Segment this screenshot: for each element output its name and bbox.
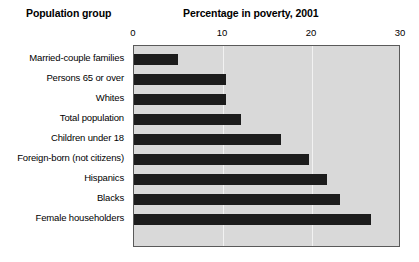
category-label: Hispanics (84, 172, 124, 183)
population-group-header: Population group (26, 7, 111, 19)
category-label: Blacks (97, 192, 124, 203)
bar (134, 114, 241, 125)
x-tick-label-20: 20 (299, 27, 323, 38)
category-label: Children under 18 (51, 132, 124, 143)
bar (134, 74, 226, 85)
bar (134, 194, 340, 205)
bar (134, 134, 281, 145)
category-label: Married-couple families (29, 52, 124, 63)
category-label: Whites (96, 92, 124, 103)
plot-area (133, 45, 400, 247)
bar (134, 154, 309, 165)
category-label: Female householders (35, 212, 124, 223)
x-tick-label-10: 10 (210, 27, 234, 38)
category-axis-labels: Married-couple familiesPersons 65 or ove… (0, 46, 128, 247)
category-label: Total population (60, 112, 124, 123)
x-tick-label-30: 30 (388, 27, 412, 38)
category-label: Foreign-born (not citizens) (17, 152, 124, 163)
bar (134, 54, 178, 65)
bar (134, 174, 327, 185)
x-tick-label-0: 0 (121, 27, 145, 38)
category-label: Persons 65 or over (46, 72, 124, 83)
chart-title: Percentage in poverty, 2001 (183, 7, 318, 19)
poverty-bar-chart: Population group Percentage in poverty, … (0, 0, 419, 262)
bar (134, 94, 226, 105)
bar (134, 214, 371, 225)
